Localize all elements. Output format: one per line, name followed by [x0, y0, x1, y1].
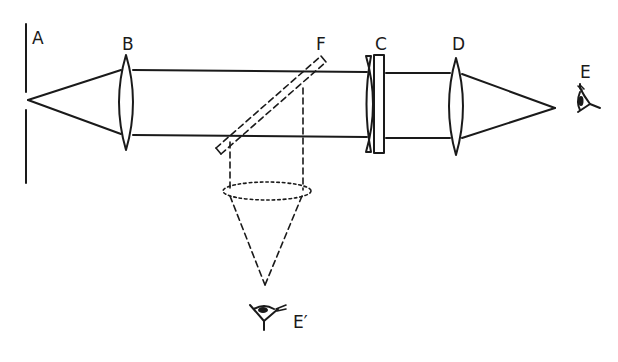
- eye-e-prime-icon: [250, 305, 286, 330]
- label-b: B: [122, 34, 134, 54]
- label-a: A: [32, 28, 44, 48]
- label-d: D: [452, 34, 465, 54]
- converging-rays: [462, 74, 555, 138]
- label-f: F: [316, 34, 326, 54]
- diverging-rays: [28, 70, 121, 134]
- dotted-lens: [223, 182, 311, 200]
- label-c: C: [375, 34, 387, 54]
- optical-diagram: A B F E′: [0, 0, 618, 362]
- lens-d: [449, 58, 463, 155]
- label-e-prime: E′: [293, 312, 308, 332]
- eye-e-icon: [578, 84, 600, 112]
- label-e: E: [580, 62, 591, 82]
- parallel-beam: [133, 70, 450, 138]
- converging-cone-e-prime: [230, 196, 302, 285]
- component-c: [366, 55, 384, 153]
- reflected-beam: [230, 88, 303, 190]
